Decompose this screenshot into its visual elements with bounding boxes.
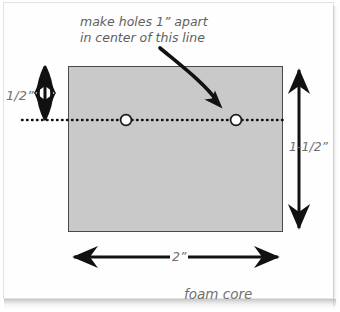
annotation-line-2: in center of this line xyxy=(80,30,208,46)
annotation-line-1: make holes 1” apart xyxy=(80,14,208,30)
diagram-card: make holes 1” apart in center of this li… xyxy=(0,0,340,312)
diagram-canvas xyxy=(0,0,340,312)
label-one-and-half-inch: 1-1/2” xyxy=(289,139,328,155)
hole-left xyxy=(121,115,132,126)
hole-right xyxy=(231,115,242,126)
label-foam-core: foam core xyxy=(184,286,252,303)
annotation-text: make holes 1” apart in center of this li… xyxy=(80,14,208,45)
foam-core-board xyxy=(69,67,283,232)
label-two-inch: 2” xyxy=(170,249,188,265)
label-half-inch: 1/2” xyxy=(6,88,34,104)
dimension-arrow-top-left xyxy=(38,67,52,119)
